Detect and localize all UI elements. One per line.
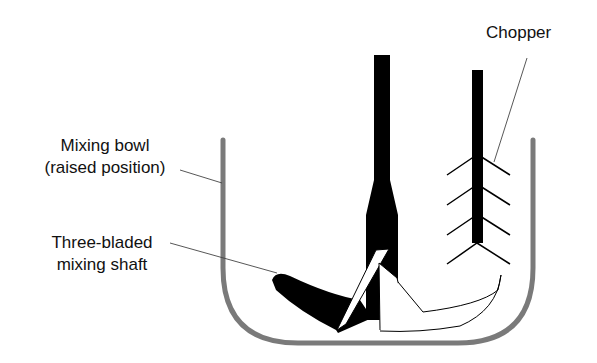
shaft-label-line1: Three-bladed [32,232,172,254]
chopper-label-text: Chopper [486,22,551,44]
mixing-bowl-label: Mixing bowl (raised position) [30,135,180,179]
mixing-shaft-label: Three-bladed mixing shaft [32,232,172,276]
chopper-leader [494,58,527,162]
scraper-blade [380,275,501,331]
bowl-label-line1: Mixing bowl [30,135,180,157]
bowl-leader [180,170,222,183]
shaft-label-line2: mixing shaft [32,254,172,276]
mixer-diagram [0,0,597,363]
bowl-label-line2: (raised position) [30,157,180,179]
chopper-label: Chopper [486,22,551,44]
